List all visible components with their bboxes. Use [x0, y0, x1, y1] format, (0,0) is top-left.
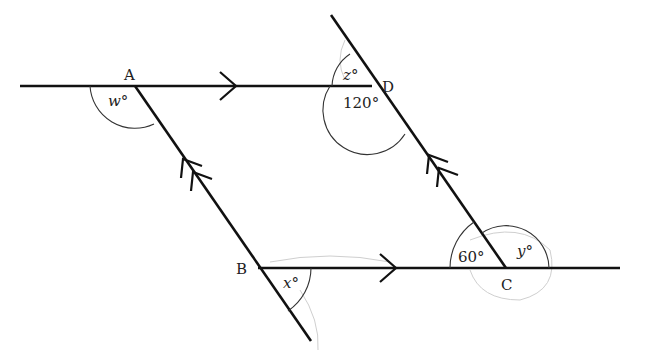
pencil-trace	[300, 290, 318, 350]
point-label-A: A	[123, 66, 135, 84]
geometry-diagram: A D B C w° z° 120° x° 60° y°	[0, 0, 648, 361]
line-slant-DC	[331, 15, 506, 268]
line-slant-AB	[135, 86, 311, 341]
point-label-B: B	[236, 260, 247, 278]
pencil-trace	[270, 256, 390, 262]
point-label-D: D	[382, 78, 394, 96]
angle-label-120: 120°	[343, 94, 379, 112]
angle-label-z: z°	[342, 66, 358, 84]
point-label-C: C	[501, 276, 512, 294]
angle-label-60: 60°	[458, 248, 485, 266]
angle-label-x: x°	[283, 274, 299, 292]
angle-label-w: w°	[108, 92, 128, 110]
angle-label-y: y°	[516, 242, 533, 260]
